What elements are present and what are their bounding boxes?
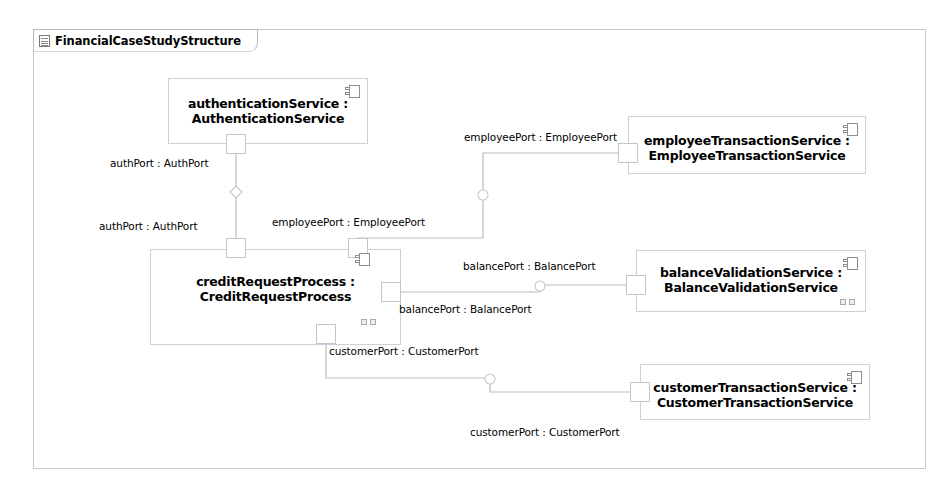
part-balance-validation-service[interactable]: balanceValidationService : BalanceValida… [636, 250, 866, 312]
part-employee-transaction-service[interactable]: employeeTransactionService : EmployeeTra… [628, 116, 866, 174]
label-authport-top: authPort : AuthPort [110, 157, 208, 169]
diagram-icon [39, 35, 50, 47]
part-name: authenticationService : [175, 96, 361, 111]
decorative-glyphs [840, 299, 855, 305]
part-authentication-service[interactable]: authenticationService : AuthenticationSe… [168, 78, 368, 144]
part-type: CreditRequestProcess [157, 289, 394, 304]
part-name: creditRequestProcess : [157, 274, 394, 289]
port-credit-balanceport[interactable] [381, 282, 401, 302]
part-title: employeeTransactionService : EmployeeTra… [629, 133, 865, 163]
port-credit-customerport[interactable] [316, 324, 336, 344]
port-balance-service-balanceport[interactable] [626, 275, 646, 295]
part-title: customerTransactionService : CustomerTra… [641, 380, 869, 410]
part-title: creditRequestProcess : CreditRequestProc… [151, 274, 400, 304]
label-customerport-bottom: customerPort : CustomerPort [470, 426, 620, 438]
label-authport-bottom: authPort : AuthPort [99, 220, 197, 232]
port-employee-service-employeeport[interactable] [618, 143, 638, 163]
part-title: authenticationService : AuthenticationSe… [169, 96, 367, 126]
part-name: customerTransactionService : [647, 380, 863, 395]
port-authentication-authport[interactable] [226, 134, 246, 154]
frame-title-label: FinancialCaseStudyStructure [55, 34, 241, 48]
decorative-glyphs [361, 319, 376, 325]
label-employeeport-left: employeePort : EmployeePort [272, 216, 425, 228]
part-name: employeeTransactionService : [635, 133, 859, 148]
label-balanceport-right: balancePort : BalancePort [463, 260, 596, 272]
part-name: balanceValidationService : [643, 265, 859, 280]
diagram-canvas: authenticationService : AuthenticationSe… [0, 0, 942, 490]
frame-title-tab[interactable]: FinancialCaseStudyStructure [33, 29, 258, 52]
part-title: balanceValidationService : BalanceValida… [637, 265, 865, 295]
label-customerport-top: customerPort : CustomerPort [329, 345, 479, 357]
port-customer-service-customerport[interactable] [630, 382, 650, 402]
port-credit-authport[interactable] [226, 238, 246, 258]
component-icon [355, 253, 370, 266]
part-type: EmployeeTransactionService [635, 148, 859, 163]
part-customer-transaction-service[interactable]: customerTransactionService : CustomerTra… [640, 364, 870, 420]
label-employeeport-right: employeePort : EmployeePort [464, 131, 617, 143]
part-type: CustomerTransactionService [647, 395, 863, 410]
part-type: AuthenticationService [175, 111, 361, 126]
label-balanceport-left: balancePort : BalancePort [399, 303, 532, 315]
part-type: BalanceValidationService [643, 280, 859, 295]
